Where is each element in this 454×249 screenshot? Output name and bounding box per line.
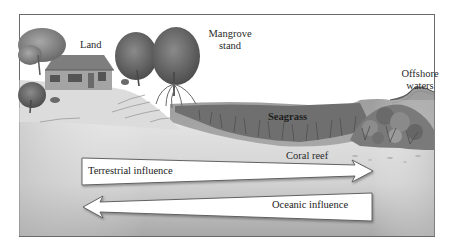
label-land: Land — [80, 39, 102, 51]
label-offshore-line1: Offshore — [390, 68, 450, 80]
label-offshore-waters: Offshore waters — [390, 68, 450, 92]
label-mangrove-line1: Mangrove — [200, 28, 260, 40]
oceanic-influence-label: Oceanic influence — [272, 199, 348, 210]
label-mangrove-stand: Mangrove stand — [200, 28, 260, 52]
terrestrial-influence-label: Terrestrial influence — [88, 165, 173, 176]
label-seagrass: Seagrass — [268, 111, 307, 123]
label-coral-reef: Coral reef — [286, 150, 328, 162]
house-illustration — [45, 55, 114, 90]
label-mangrove-line2: stand — [200, 40, 260, 52]
label-offshore-line2: waters — [390, 80, 450, 92]
